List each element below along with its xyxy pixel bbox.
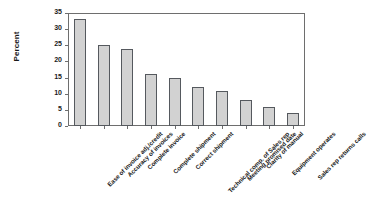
bar-slot <box>210 13 234 126</box>
y-axis-tick-label: 20 <box>54 56 62 64</box>
x-axis-tick-mark <box>198 126 199 129</box>
bar <box>216 91 228 127</box>
bar-slot <box>115 13 139 126</box>
y-axis-tick-label: 5 <box>58 105 62 113</box>
x-axis-tick-mark <box>246 126 247 129</box>
y-axis-tick-label: 15 <box>54 73 62 81</box>
bar <box>74 19 86 126</box>
y-axis-tick-label: 0 <box>58 121 62 129</box>
bar <box>98 45 110 126</box>
bar-slot <box>234 13 258 126</box>
x-axis-tick-mark <box>222 126 223 129</box>
x-axis-labels: Ease of invoice adj./creditAccuracy of i… <box>68 130 305 208</box>
bar <box>263 107 275 126</box>
y-axis-tick-label: 25 <box>54 40 62 48</box>
bars-area <box>68 13 305 126</box>
x-axis-tick-mark <box>175 126 176 129</box>
x-axis-tick-mark <box>269 126 270 129</box>
x-axis-tick-mark <box>293 126 294 129</box>
x-axis-tick-mark <box>127 126 128 129</box>
bar-slot <box>186 13 210 126</box>
x-axis-tick-mark <box>104 126 105 129</box>
bar <box>121 49 133 126</box>
bar <box>192 87 204 126</box>
y-axis-tick-label: 35 <box>54 8 62 16</box>
y-axis-ticks: 05101520253035 <box>0 13 68 126</box>
y-axis-tick-label: 10 <box>54 89 62 97</box>
x-axis-tick-label: Meeting promised date <box>245 130 297 182</box>
bar-slot <box>68 13 92 126</box>
bar-slot <box>281 13 305 126</box>
bar <box>169 78 181 126</box>
bar-slot <box>92 13 116 126</box>
bar-slot <box>163 13 187 126</box>
y-axis-tick-label: 30 <box>54 24 62 32</box>
bar <box>145 74 157 126</box>
bar <box>240 100 252 126</box>
bar-slot <box>258 13 282 126</box>
bar <box>287 113 299 126</box>
bar-slot <box>139 13 163 126</box>
x-axis-tick-mark <box>80 126 81 129</box>
x-axis-tick-mark <box>151 126 152 129</box>
